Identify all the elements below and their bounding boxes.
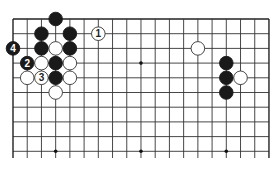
black-stone — [35, 42, 49, 56]
white-stone-disc — [20, 71, 34, 85]
black-stone — [35, 27, 49, 41]
black-stone-disc — [220, 71, 234, 85]
white-stone-disc — [49, 42, 63, 56]
go-board: 1423 — [0, 0, 279, 174]
white-stone — [63, 56, 77, 70]
black-stone-disc — [49, 56, 63, 70]
white-stone — [49, 86, 63, 100]
black-stone-disc — [35, 27, 49, 41]
star-point — [139, 61, 143, 65]
black-stone-disc — [220, 86, 234, 100]
black-stone — [49, 12, 63, 26]
black-stone — [220, 71, 234, 85]
black-stone — [49, 71, 63, 85]
white-stone — [49, 42, 63, 56]
white-stone — [191, 42, 205, 56]
white-stone-disc — [191, 42, 205, 56]
white-stone-disc — [63, 56, 77, 70]
white-stone — [234, 71, 248, 85]
star-point — [139, 150, 143, 154]
black-stone-disc — [220, 56, 234, 70]
move-number-label: 2 — [24, 58, 30, 69]
black-stone-disc — [35, 42, 49, 56]
black-stone — [49, 56, 63, 70]
white-stone-move-1: 1 — [92, 27, 106, 41]
black-stone-disc — [63, 27, 77, 41]
black-stone-disc — [49, 12, 63, 26]
white-stone — [35, 56, 49, 70]
black-stone-move-4: 4 — [6, 42, 20, 56]
white-stone-disc — [234, 71, 248, 85]
star-point — [225, 150, 229, 154]
black-stone-move-2: 2 — [20, 56, 34, 70]
move-number-label: 3 — [39, 72, 45, 83]
white-stone — [20, 71, 34, 85]
black-stone — [220, 86, 234, 100]
black-stone — [63, 27, 77, 41]
move-number-label: 4 — [10, 43, 16, 54]
white-stone — [63, 71, 77, 85]
move-number-label: 1 — [96, 28, 102, 39]
black-stone — [63, 42, 77, 56]
white-stone-disc — [35, 56, 49, 70]
white-stone-move-3: 3 — [35, 71, 49, 85]
black-stone-disc — [49, 71, 63, 85]
star-point — [54, 150, 58, 154]
black-stone — [220, 56, 234, 70]
white-stone-disc — [63, 71, 77, 85]
white-stone-disc — [49, 86, 63, 100]
black-stone-disc — [63, 42, 77, 56]
